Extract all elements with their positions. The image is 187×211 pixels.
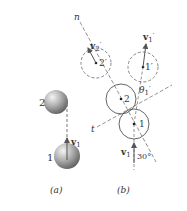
tangent-axis-label: t	[91, 124, 95, 134]
angle-30-label: 30°	[137, 152, 151, 161]
circle-1-center	[133, 123, 136, 126]
circle-2-center	[120, 98, 123, 101]
ball-2	[44, 90, 68, 114]
theta-1-prime-label: θ1′	[139, 85, 151, 97]
v1-label: v1	[120, 147, 131, 159]
v1-prime-label: v1′	[142, 32, 155, 44]
circle-2-prime-label: 2′	[99, 58, 107, 68]
circle-2-label: 2	[124, 94, 130, 104]
part-a: 2 1 v1 (a)	[39, 90, 81, 195]
caption-b: (b)	[117, 185, 130, 195]
caption-a: (a)	[50, 185, 63, 195]
ball-1-label: 1	[47, 152, 53, 163]
v2-prime-label: v2′	[89, 41, 102, 53]
collision-diagram: 2 1 v1 (a) n t 2′ v2′ 1′ v1′ 2	[0, 0, 187, 211]
part-b: n t 2′ v2′ 1′ v1′ 2 1 θ1′ v1	[74, 12, 172, 195]
ball-2-label: 2	[39, 97, 45, 108]
circle-1-prime-label: 1′	[145, 62, 153, 72]
circle-1-label: 1	[139, 119, 145, 129]
normal-axis-label: n	[74, 12, 80, 22]
